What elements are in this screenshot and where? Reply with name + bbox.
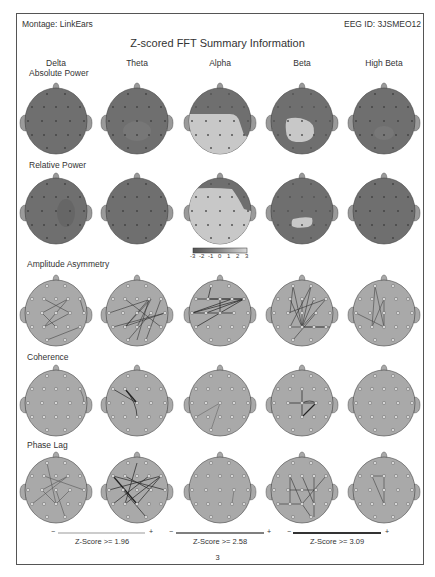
map-rel-alpha <box>184 173 256 251</box>
zscore-plus-2: + <box>267 528 271 535</box>
colorscale-tick-minus1: -1 <box>208 253 213 259</box>
map-coh-beta <box>266 365 338 436</box>
map-rel-high-beta <box>348 173 420 244</box>
colorscale-tick-minus2: -2 <box>199 253 204 259</box>
map-asym-theta <box>101 275 173 346</box>
map-asym-delta <box>20 275 92 346</box>
zscore-label-1-96: Z-Score >= 1.96 <box>75 537 129 546</box>
zscore-minus-1: − <box>51 528 55 535</box>
zscore-label-2-58: Z-Score >= 2.58 <box>193 537 247 546</box>
map-coh-alpha <box>184 365 256 436</box>
map-rel-beta <box>266 173 338 244</box>
map-coh-high-beta <box>348 365 420 436</box>
map-phase-alpha <box>184 452 256 523</box>
map-asym-high-beta <box>348 275 420 346</box>
map-rel-theta <box>101 173 173 244</box>
zscore-minus-3: − <box>287 528 291 535</box>
map-abs-beta <box>266 83 338 154</box>
map-coh-delta <box>20 365 92 436</box>
zscore-label-3-09: Z-Score >= 3.09 <box>310 537 364 546</box>
map-asym-beta <box>266 275 338 346</box>
colorscale-tick-minus3: -3 <box>190 253 195 259</box>
colorscale-tick-1: 1 <box>227 253 230 259</box>
page-number: 3 <box>0 553 435 562</box>
map-phase-theta <box>101 452 173 523</box>
map-asym-alpha <box>184 275 256 346</box>
map-phase-delta <box>20 452 92 523</box>
map-phase-high-beta <box>348 452 420 523</box>
map-abs-alpha <box>184 83 256 161</box>
zscore-plus-3: + <box>385 528 389 535</box>
colorscale-tick-0: 0 <box>218 253 221 259</box>
topographic-maps <box>0 0 435 577</box>
map-coh-theta <box>101 365 173 436</box>
colorscale-tick-3: 3 <box>245 253 248 259</box>
map-abs-delta <box>20 83 92 154</box>
map-phase-beta <box>266 452 338 523</box>
colorscale-tick-2: 2 <box>236 253 239 259</box>
zscore-plus-1: + <box>149 528 153 535</box>
map-abs-high-beta <box>348 83 420 154</box>
map-abs-theta <box>101 83 173 154</box>
map-rel-delta <box>20 173 92 244</box>
zscore-minus-2: − <box>169 528 173 535</box>
